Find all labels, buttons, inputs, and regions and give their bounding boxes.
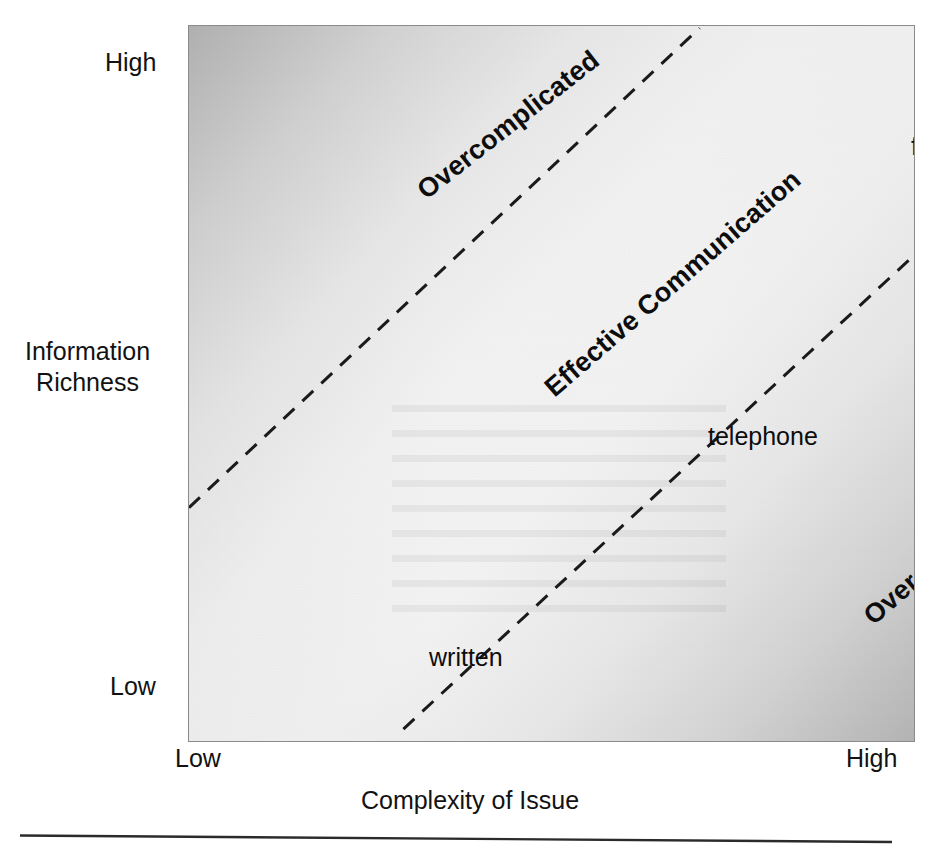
media-label-written: written [429, 643, 503, 672]
y-axis-high-label: High [105, 48, 156, 77]
communication-richness-matrix-figure: Overcomplicated Effective Communication … [0, 0, 940, 851]
y-axis-low-label: Low [110, 672, 156, 701]
bottom-divider-rule [20, 832, 892, 844]
x-axis-title: Complexity of Issue [0, 786, 940, 815]
media-label-face-to-face: face-to-face [911, 132, 915, 161]
upper-boundary-dashed-line [189, 28, 700, 508]
x-axis-low-label: Low [175, 744, 221, 773]
media-label-telephone: telephone [708, 422, 818, 451]
y-axis-title: Information Richness [0, 336, 175, 397]
y-axis-title-line-1: Information [0, 336, 175, 367]
plot-area: Overcomplicated Effective Communication … [188, 25, 915, 742]
x-axis-high-label: High [846, 744, 897, 773]
y-axis-title-line-2: Richness [0, 367, 175, 398]
